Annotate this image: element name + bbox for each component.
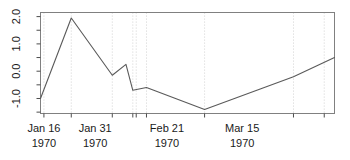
chart-canvas: -1.00.01.02.0 Jan 161970Jan 311970Feb 21… — [0, 0, 350, 160]
x-axis-tick-label-year: 1970 — [230, 137, 254, 149]
y-axis-tick-label: 0.0 — [10, 64, 22, 79]
x-axis-tick-label-date: Mar 15 — [225, 122, 259, 134]
x-axis-tick-label-year: 1970 — [155, 137, 179, 149]
x-axis-tick-label-date: Jan 16 — [27, 122, 60, 134]
y-axis-tick-label: 1.0 — [10, 36, 22, 51]
y-axis-tick-label: -1.0 — [10, 89, 22, 108]
chart-background — [0, 0, 350, 160]
y-axis-tick-label: 2.0 — [10, 9, 22, 24]
timeseries-chart: -1.00.01.02.0 Jan 161970Jan 311970Feb 21… — [0, 0, 350, 160]
x-axis-tick-label-date: Feb 21 — [150, 122, 184, 134]
x-axis-tick-label-year: 1970 — [32, 137, 56, 149]
x-axis-tick-label-date: Jan 31 — [79, 122, 112, 134]
x-axis-tick-label-year: 1970 — [83, 137, 107, 149]
